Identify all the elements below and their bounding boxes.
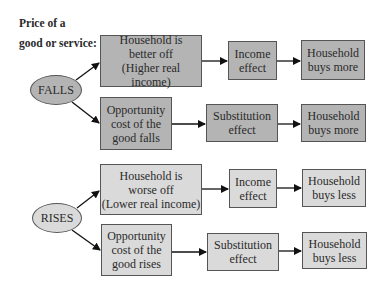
box-text: (Higher real income) (101, 61, 201, 89)
box-text: buys less (312, 188, 356, 202)
box-text: Income (235, 175, 271, 189)
rises-substitution-cause-box: Opportunity cost of the good rises (101, 224, 172, 276)
rises-substitution-result-box: Household buys less (302, 232, 367, 269)
box-text: better off (129, 47, 173, 61)
box-text: good falls (112, 131, 160, 145)
box-text: Substitution (213, 109, 271, 123)
box-text: Opportunity (107, 103, 166, 117)
box-text: Substitution (214, 238, 272, 252)
falls-income-result-box: Household buys more (301, 40, 365, 80)
box-text: Household (307, 46, 359, 60)
box-text: Household is (120, 33, 183, 47)
falls-substitution-cause-box: Opportunity cost of the good falls (100, 97, 172, 150)
rises-income-result-box: Household buys less (302, 169, 366, 207)
box-text: Household (308, 174, 360, 188)
falls-income-cause-box: Household is better off (Higher real inc… (100, 35, 202, 87)
box-text: good rises (112, 257, 161, 271)
box-text: cost of the (112, 243, 162, 257)
box-text: buys more (308, 60, 358, 74)
box-text: Household is (120, 169, 183, 183)
box-text: Opportunity (107, 229, 166, 243)
rises-node: RISES (32, 203, 82, 233)
box-text: effect (229, 252, 256, 266)
rises-income-effect-box: Income effect (229, 169, 277, 208)
rises-substitution-effect-box: Substitution effect (207, 233, 279, 271)
falls-substitution-result-box: Household buys more (301, 104, 366, 142)
box-text: (Lower real income) (102, 197, 201, 211)
rises-label: RISES (41, 211, 74, 226)
box-text: worse off (128, 183, 173, 197)
box-text: effect (239, 61, 266, 75)
box-text: Household (309, 237, 361, 251)
box-text: Household (308, 109, 360, 123)
falls-node: FALLS (30, 75, 82, 105)
box-text: Income (235, 47, 271, 61)
falls-income-effect-box: Income effect (228, 41, 277, 80)
box-text: buys more (308, 123, 358, 137)
falls-substitution-effect-box: Substitution effect (206, 104, 278, 142)
falls-label: FALLS (38, 83, 74, 98)
box-text: effect (228, 123, 255, 137)
rises-income-cause-box: Household is worse off (Lower real incom… (100, 164, 202, 215)
box-text: buys less (313, 251, 357, 265)
box-text: effect (239, 189, 266, 203)
box-text: cost of the (111, 117, 161, 131)
